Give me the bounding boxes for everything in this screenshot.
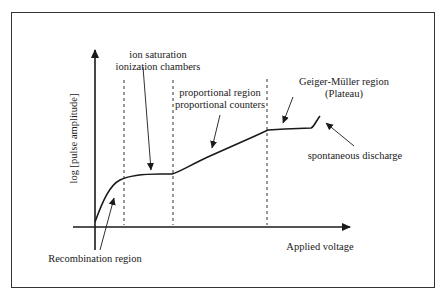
label-spontaneous-discharge: spontaneous discharge bbox=[300, 150, 410, 162]
x-axis-label: Applied voltage bbox=[270, 241, 370, 253]
arrow-ion-saturation bbox=[143, 67, 151, 170]
label-geiger-muller: Geiger-Müller region (Plateau) bbox=[284, 76, 404, 100]
arrow-spontaneous bbox=[326, 123, 354, 146]
arrow-geiger bbox=[283, 97, 293, 123]
label-proportional: proportional region proportional counter… bbox=[173, 87, 267, 111]
label-ion-saturation: ion saturation ionization chambers bbox=[113, 49, 203, 73]
response-curve bbox=[95, 116, 320, 222]
y-axis-label: log [pulse amplitude] bbox=[68, 89, 79, 189]
label-recombination: Recombination region bbox=[40, 253, 150, 265]
arrow-proportional bbox=[212, 115, 220, 148]
